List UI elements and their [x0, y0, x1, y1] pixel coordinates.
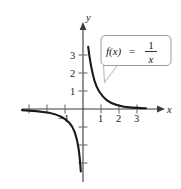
callout-pointer	[104, 65, 119, 83]
y-tick-label-2: 2	[70, 68, 75, 79]
function-graph-figure: 1 2 3 −1 1 2 3 x y f(x) = 1 x	[0, 0, 181, 189]
curve-negative-branch	[22, 110, 81, 171]
x-tick-label-3: 3	[134, 113, 139, 124]
x-tick-label-2: 2	[116, 113, 121, 124]
y-axis-arrow-icon	[80, 22, 87, 30]
formula-equals-sign: =	[129, 45, 135, 57]
formula-denominator: x	[148, 53, 154, 65]
x-axis-arrow-icon	[157, 106, 165, 113]
y-axis-label: y	[85, 12, 91, 23]
y-tick-label-3: 3	[70, 50, 75, 61]
x-tick-label-1: 1	[98, 113, 103, 124]
formula-numerator: 1	[148, 39, 154, 51]
formula-function-name: f(x)	[106, 45, 122, 58]
y-tick-label-1: 1	[70, 86, 75, 97]
graph-canvas: 1 2 3 −1 1 2 3 x y f(x) = 1 x	[0, 0, 181, 189]
x-axis-label: x	[166, 104, 172, 115]
